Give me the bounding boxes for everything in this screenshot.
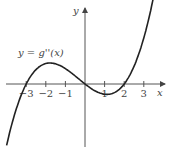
y-axis-label: y: [72, 5, 79, 16]
graph-figure: −3−2−1123 x y y = g''(x): [0, 0, 169, 150]
svg-text:−1: −1: [58, 88, 73, 99]
svg-text:2: 2: [121, 88, 127, 99]
graph-svg: −3−2−1123 x y y = g''(x): [0, 0, 169, 150]
x-axis-label: x: [157, 87, 163, 98]
curve-label: y = g''(x): [17, 47, 64, 58]
curve-g-double-prime: [7, 0, 160, 145]
x-tick-labels: −3−2−1123: [19, 88, 147, 99]
svg-text:3: 3: [141, 88, 147, 99]
svg-text:−2: −2: [38, 88, 53, 99]
